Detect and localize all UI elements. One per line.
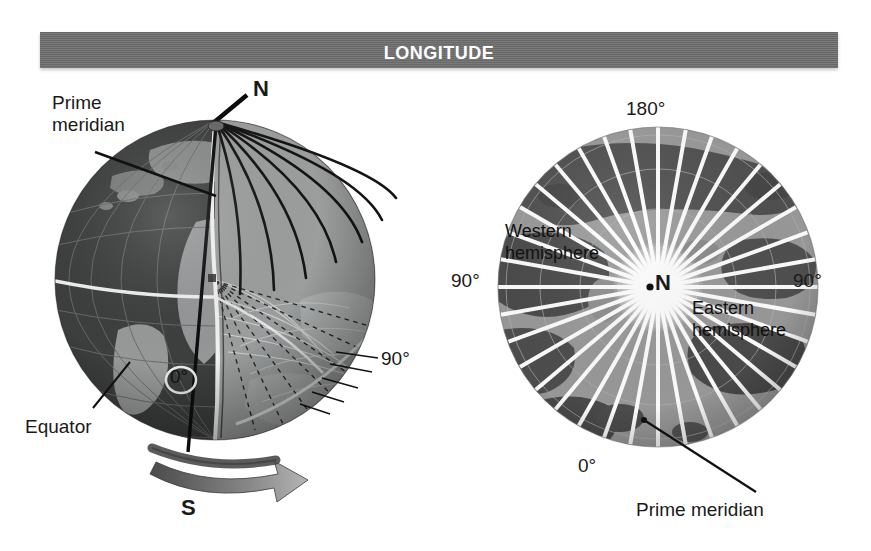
left-globe-north-pole-marker [208,121,224,131]
prime-meridian-leader-line-right [644,420,756,492]
left-globe-shading [55,120,375,440]
label-0-degrees-right: 0° [578,455,596,477]
left-globe-prime-meridian-line [212,120,218,440]
label-south-pole-left: S [181,497,196,519]
label-prime-meridian-right: Prime meridian [636,499,764,521]
label-180-degrees: 180° [626,98,665,120]
left-globe-graticule [56,120,215,440]
figure-title: Longitude [384,38,495,63]
globes-illustration [0,0,871,551]
left-globe-equator-line [55,281,215,297]
label-90-degrees-west: 90° [451,270,480,292]
label-equator: Equator [25,416,92,438]
rotation-arrow [150,448,308,502]
label-90-degrees-east: 90° [793,270,822,292]
longitude-figure: Longitude [0,0,871,551]
left-globe-interior-dashed-meridians [215,281,376,430]
left-globe-axis-top [212,95,247,124]
label-western-hemisphere: Western hemisphere [505,220,599,264]
left-globe-shell [55,120,375,440]
prime-meridian-leader-line-left [95,152,216,196]
label-north-pole-right: N [655,272,671,294]
left-globe-centre-marker [208,274,216,282]
right-globe [479,100,824,492]
left-globe-cutaway-wedge [55,120,398,440]
figure-title-banner: Longitude [40,32,838,68]
left-globe-axis [188,125,216,452]
equator-leader-line [93,362,130,408]
right-globe-pole-dot [646,283,653,290]
label-zero-degrees-left: 0° [170,366,188,388]
left-globe [55,95,398,502]
label-eastern-hemisphere: Eastern hemisphere [692,297,786,341]
prime-meridian-anchor-dot [641,417,647,423]
left-globe-sphere [55,120,375,440]
label-north-pole-left: N [253,78,269,100]
left-globe-meridian-arcs [216,122,396,294]
label-ninety-degrees-left: 90° [381,348,410,370]
left-globe-ninety-tick-lines [300,352,378,414]
label-prime-meridian-left: Prime meridian [52,92,125,136]
